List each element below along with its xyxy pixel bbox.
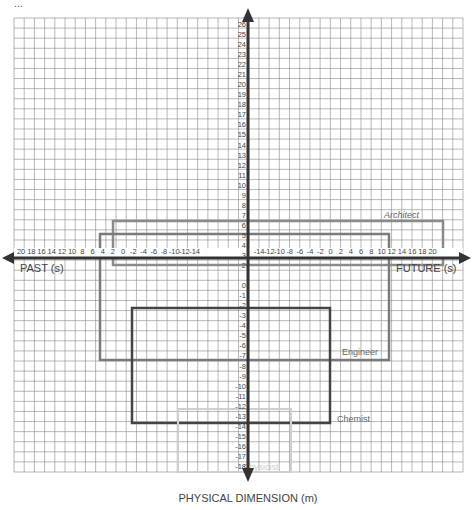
y-tick: 11 bbox=[238, 171, 246, 180]
y-tick: 17 bbox=[238, 110, 246, 119]
x-tick: 6 bbox=[90, 247, 94, 256]
y-tick: 6 bbox=[242, 221, 246, 230]
x-tick: 0 bbox=[328, 247, 332, 256]
x-tick: -4 bbox=[140, 247, 147, 256]
x-tick: 10 bbox=[377, 247, 385, 256]
x-tick: 2 bbox=[111, 247, 115, 256]
y-tick: -14 bbox=[235, 422, 246, 431]
x-tick: 18 bbox=[418, 247, 426, 256]
y-tick: 13 bbox=[238, 151, 246, 160]
y-tick: 12 bbox=[238, 161, 246, 170]
y-tick: -16 bbox=[235, 442, 246, 451]
spacetime-diagram: ArchitectEngineerChemistPhysicist2018161… bbox=[0, 0, 473, 510]
y-tick: -2 bbox=[239, 301, 246, 310]
x-tick: 6 bbox=[359, 247, 363, 256]
x-tick: -12 bbox=[179, 247, 190, 256]
x-tick: -14 bbox=[189, 247, 200, 256]
x-tick: -2 bbox=[130, 247, 137, 256]
y-tick: -1 bbox=[239, 291, 246, 300]
y-tick: 7 bbox=[242, 211, 246, 220]
x-tick: 4 bbox=[349, 247, 353, 256]
x-tick: 8 bbox=[369, 247, 373, 256]
past-label: PAST (s) bbox=[20, 262, 64, 274]
y-tick: 5 bbox=[242, 231, 246, 240]
y-tick: 23 bbox=[238, 50, 246, 59]
y-tick: 20 bbox=[238, 80, 246, 89]
label-engineer: Engineer bbox=[342, 347, 378, 357]
y-tick: 9 bbox=[242, 191, 246, 200]
x-tick: 16 bbox=[408, 247, 416, 256]
y-tick: -15 bbox=[235, 432, 246, 441]
x-tick: 0 bbox=[121, 247, 125, 256]
y-tick: -13 bbox=[235, 412, 246, 421]
physical-dimension-label: PHYSICAL DIMENSION (m) bbox=[179, 492, 318, 504]
future-label: FUTURE (s) bbox=[396, 262, 457, 274]
x-tick: 12 bbox=[58, 247, 66, 256]
x-tick: 14 bbox=[48, 247, 56, 256]
y-tick: 0 bbox=[242, 281, 246, 290]
y-tick: 21 bbox=[238, 70, 246, 79]
y-tick: -3 bbox=[239, 311, 246, 320]
arrow-right-icon bbox=[459, 252, 471, 264]
x-tick: -4 bbox=[307, 247, 314, 256]
y-tick: 24 bbox=[238, 40, 246, 49]
y-tick: 18 bbox=[238, 100, 246, 109]
x-tick: -10 bbox=[169, 247, 180, 256]
y-tick: 4 bbox=[242, 241, 246, 250]
y-tick: -9 bbox=[239, 372, 246, 381]
y-tick: -11 bbox=[236, 392, 246, 401]
x-tick: -6 bbox=[297, 247, 304, 256]
arrow-up-icon bbox=[242, 8, 254, 22]
y-tick: -8 bbox=[239, 362, 246, 371]
x-tick: 20 bbox=[428, 247, 436, 256]
y-tick: 10 bbox=[238, 181, 246, 190]
arrow-left-icon bbox=[2, 252, 14, 264]
x-tick: 18 bbox=[27, 247, 35, 256]
x-tick: 16 bbox=[37, 247, 45, 256]
y-tick: 2 bbox=[242, 261, 246, 270]
label-architect: Architect bbox=[383, 210, 420, 220]
y-tick: 14 bbox=[238, 141, 246, 150]
x-tick: 14 bbox=[398, 247, 406, 256]
y-tick: -17 bbox=[235, 452, 246, 461]
x-tick: -6 bbox=[150, 247, 157, 256]
rect-chemist bbox=[132, 308, 330, 423]
y-tick: 19 bbox=[238, 90, 246, 99]
x-tick: 10 bbox=[68, 247, 76, 256]
x-tick: 12 bbox=[388, 247, 396, 256]
x-tick: -10 bbox=[274, 247, 285, 256]
x-tick: 8 bbox=[80, 247, 84, 256]
y-tick: 22 bbox=[238, 60, 246, 69]
y-tick: -4 bbox=[239, 321, 246, 330]
x-tick: 4 bbox=[101, 247, 105, 256]
arrow-down-icon bbox=[242, 468, 254, 482]
y-tick: -10 bbox=[235, 382, 246, 391]
y-tick: -5 bbox=[239, 331, 246, 340]
y-tick: 25 bbox=[238, 30, 246, 39]
x-tick: 2 bbox=[339, 247, 343, 256]
label-chemist: Chemist bbox=[337, 414, 371, 424]
x-tick: -8 bbox=[161, 247, 168, 256]
y-tick: 15 bbox=[238, 130, 246, 139]
y-tick: -6 bbox=[239, 341, 246, 350]
x-tick: 20 bbox=[17, 247, 25, 256]
y-tick: 16 bbox=[238, 120, 246, 129]
y-tick: -7 bbox=[239, 351, 246, 360]
y-tick: -12 bbox=[235, 402, 246, 411]
y-tick: 8 bbox=[242, 201, 246, 210]
x-tick: -2 bbox=[317, 247, 324, 256]
x-tick: -8 bbox=[286, 247, 293, 256]
